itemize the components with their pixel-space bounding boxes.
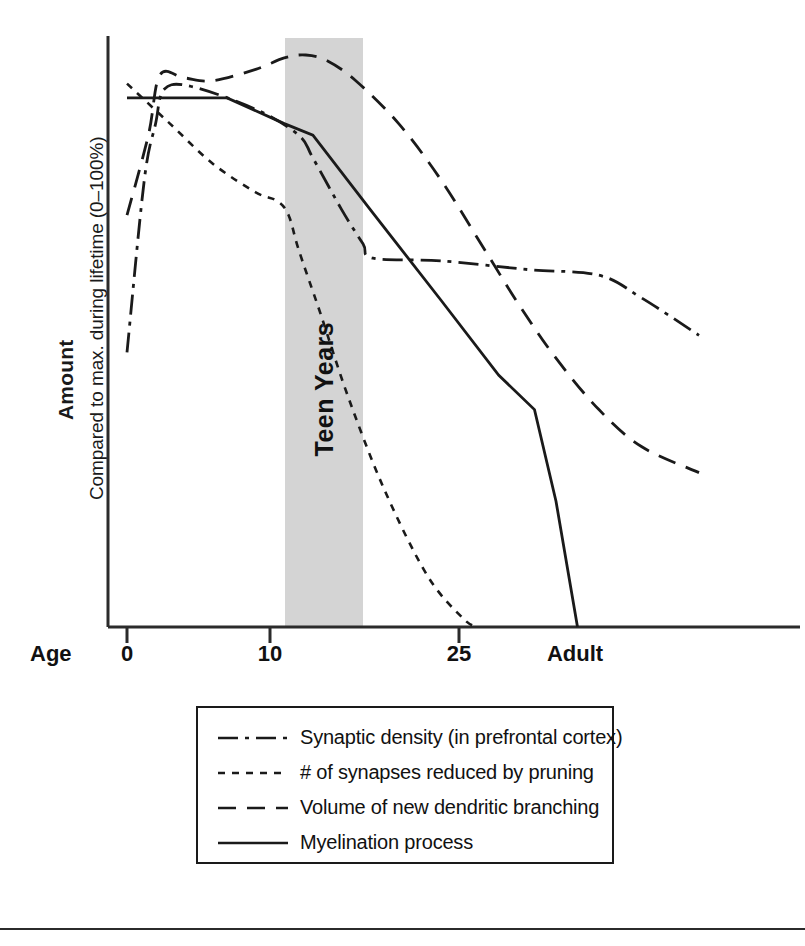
legend-label: Myelination process bbox=[300, 831, 473, 854]
legend-label: # of synapses reduced by pruning bbox=[300, 761, 594, 784]
series-layer bbox=[127, 55, 699, 627]
teen-years-label: Teen Years bbox=[310, 373, 339, 457]
legend-item[interactable]: # of synapses reduced by pruning bbox=[198, 755, 612, 790]
chart-legend: Synaptic density (in prefrontal cortex)#… bbox=[196, 706, 614, 864]
series-line-1 bbox=[127, 84, 699, 352]
x-tick-label-10: 10 bbox=[250, 641, 290, 667]
legend-label: Volume of new dendritic branching bbox=[300, 796, 599, 819]
x-axis-title: Age bbox=[30, 641, 72, 667]
chart-page: Amount Compared to max. during lifetime … bbox=[0, 0, 805, 946]
x-tick-label-0: 0 bbox=[107, 641, 147, 667]
legend-item[interactable]: Synaptic density (in prefrontal cortex) bbox=[198, 720, 612, 755]
page-bottom-rule bbox=[0, 928, 805, 930]
x-tick-label-adult: Adult bbox=[510, 641, 640, 667]
legend-label: Synaptic density (in prefrontal cortex) bbox=[300, 726, 622, 749]
x-tick-label-25: 25 bbox=[439, 641, 479, 667]
legend-swatch-dash-dot-icon bbox=[216, 731, 290, 745]
legend-swatch-dotted-icon bbox=[216, 766, 290, 780]
legend-swatch-solid-icon bbox=[216, 836, 290, 850]
legend-item[interactable]: Myelination process bbox=[198, 825, 612, 860]
chart-plot-area bbox=[0, 0, 805, 700]
legend-item[interactable]: Volume of new dendritic branching bbox=[198, 790, 612, 825]
legend-swatch-dashed-icon bbox=[216, 801, 290, 815]
